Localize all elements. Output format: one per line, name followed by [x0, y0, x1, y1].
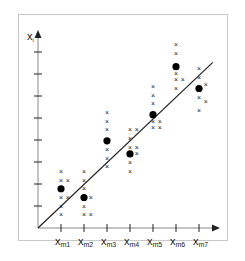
observation-cross-icon: ×	[82, 211, 86, 218]
x-tick-label: xm4	[124, 235, 139, 248]
y-axis-arrow-icon	[35, 30, 42, 38]
mean-dot	[80, 194, 87, 201]
x-axis-arrow-icon	[212, 225, 220, 232]
x-tick-label: xm1	[55, 235, 70, 248]
observation-cross-icon: ×	[105, 126, 109, 133]
observation-cross-icon: ×	[204, 81, 208, 88]
regression-line	[38, 62, 213, 228]
observation-cross-icon: ×	[204, 98, 208, 105]
observation-cross-icon: ×	[151, 92, 155, 99]
observation-cross-icon: ×	[151, 100, 155, 107]
observation-cross-icon: ×	[59, 177, 63, 184]
x-tick-label: xm2	[78, 235, 93, 248]
observation-cross-icon: ×	[174, 41, 178, 48]
observation-cross-icon: ×	[89, 211, 93, 218]
x-tick-label: xm6	[170, 235, 185, 248]
observation-cross-icon: ×	[128, 135, 132, 142]
observation-cross-icon: ×	[197, 94, 201, 101]
observation-cross-icon: ×	[105, 118, 109, 125]
observation-cross-icon: ×	[128, 159, 132, 166]
scatter-chart: xixm1xm2xm3xm4xm5xm6xm7×××××××××××××××××…	[0, 0, 245, 261]
observation-cross-icon: ×	[197, 65, 201, 72]
observation-cross-icon: ×	[174, 85, 178, 92]
observation-cross-icon: ×	[105, 146, 109, 153]
observation-cross-icon: ×	[128, 144, 132, 151]
observation-cross-icon: ×	[128, 126, 132, 133]
observation-cross-icon: ×	[197, 107, 201, 114]
observation-cross-icon: ×	[105, 155, 109, 162]
observation-cross-icon: ×	[59, 203, 63, 210]
observation-cross-icon: ×	[181, 76, 185, 83]
observation-cross-icon: ×	[66, 177, 70, 184]
observation-cross-icon: ×	[59, 168, 63, 175]
mean-dot	[195, 85, 202, 92]
observation-cross-icon: ×	[66, 194, 70, 201]
observation-cross-icon: ×	[59, 194, 63, 201]
observation-cross-icon: ×	[105, 163, 109, 170]
y-axis-label: xi	[27, 30, 34, 43]
observation-cross-icon: ×	[89, 194, 93, 201]
mean-dot	[172, 63, 179, 70]
observation-cross-icon: ×	[82, 168, 86, 175]
mean-dot	[126, 150, 133, 157]
observation-cross-icon: ×	[135, 150, 139, 157]
mean-dot	[149, 111, 156, 118]
observation-cross-icon: ×	[82, 203, 86, 210]
observation-cross-icon: ×	[151, 124, 155, 131]
mean-dot	[57, 185, 64, 192]
observation-cross-icon: ×	[59, 211, 63, 218]
observation-cross-icon: ×	[151, 83, 155, 90]
x-tick-label: xm5	[147, 235, 162, 248]
x-tick-label: xm3	[101, 235, 116, 248]
mean-dot	[103, 137, 110, 144]
observation-cross-icon: ×	[105, 109, 109, 116]
observation-cross-icon: ×	[174, 50, 178, 57]
observation-cross-icon: ×	[174, 76, 178, 83]
x-tick-label: xm7	[193, 235, 208, 248]
observation-cross-icon: ×	[158, 124, 162, 131]
observation-cross-icon: ×	[128, 168, 132, 175]
observation-cross-icon: ×	[135, 126, 139, 133]
observation-cross-icon: ×	[197, 74, 201, 81]
observation-cross-icon: ×	[82, 185, 86, 192]
observation-cross-icon: ×	[82, 177, 86, 184]
